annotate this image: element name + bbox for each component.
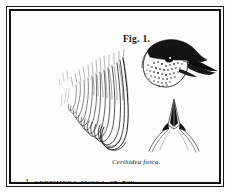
plate-caption-suffix: , sp. nov. [106,178,137,182]
wing-feathers-engraving [59,49,128,150]
plate-field: Fig. 1. Certhidea fusca. 1. Certhidea fu… [11,11,219,182]
species-caption: Certhidea fusca. [112,158,161,166]
plate-artwork [11,11,219,182]
figure-label: Fig. 1. [123,34,150,44]
plate-caption-species: Certhidea fusca [34,177,106,182]
engraved-plate: Fig. 1. Certhidea fusca. 1. Certhidea fu… [0,0,232,195]
bill-dorsal-detail-engraving [149,99,199,152]
plate-caption: 1. Certhidea fusca, sp. nov. [25,177,136,182]
plate-caption-number: 1. [25,177,32,182]
bird-head-profile-engraving [142,39,217,87]
